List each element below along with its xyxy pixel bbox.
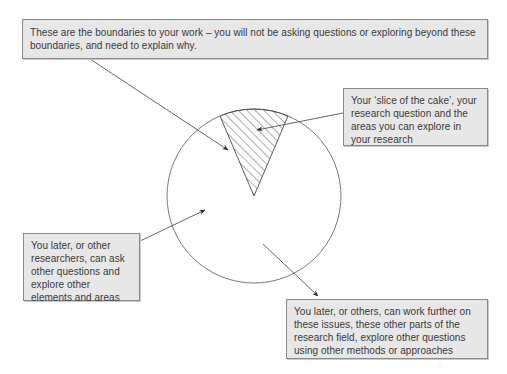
- callout-slice-of-cake: Your ‘slice of the cake’, your research …: [343, 88, 488, 146]
- callout-further-work: You later, or others, can work further o…: [286, 299, 488, 359]
- callout-boundaries: These are the boundaries to your work – …: [22, 19, 488, 59]
- diagram-canvas: These are the boundaries to your work – …: [0, 0, 507, 374]
- arrow-boundaries: [90, 59, 228, 150]
- callout-other-researchers: You later, or other researchers, can ask…: [23, 233, 140, 301]
